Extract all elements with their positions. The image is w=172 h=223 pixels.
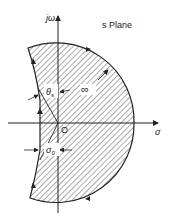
- infinity-radius-label: ∞: [81, 83, 89, 95]
- real-axis-label: σ: [155, 127, 161, 137]
- imaginary-axis-label: jω: [45, 13, 55, 23]
- origin-label: O: [61, 125, 68, 135]
- plane-title: s Plane: [102, 20, 132, 30]
- s-plane-diagram: jω s Plane σ O θs ∞ σ0: [0, 0, 172, 223]
- angle-arrow-left: [28, 95, 38, 100]
